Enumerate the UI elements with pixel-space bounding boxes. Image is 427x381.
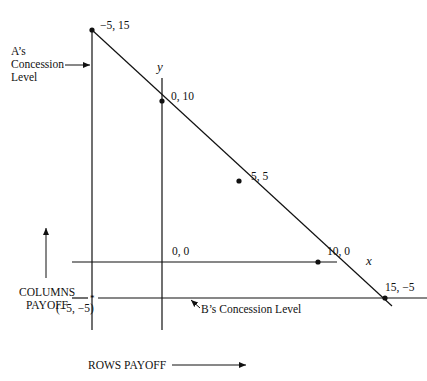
point-label-10-0: 10, 0: [327, 245, 350, 258]
point-label-5-5: 5, 5: [251, 170, 268, 183]
point-10-0: [315, 259, 320, 264]
columns-payoff-caption: COLUMNS PAYOFF: [19, 286, 75, 312]
point-label-0-10: 0, 10: [171, 90, 194, 103]
point-neg5-15: [89, 27, 94, 32]
point-label-neg5-15: −5, 15: [100, 19, 130, 32]
a-concession-label: A’s Concession Level: [11, 45, 64, 84]
rows-payoff-caption: ROWS PAYOFF: [88, 359, 166, 372]
point-label-15-neg5: 15, −5: [385, 281, 415, 294]
b-concession-label: B’s Concession Level: [201, 303, 301, 316]
origin-label: 0, 0: [172, 245, 189, 258]
point-15-neg5: [382, 295, 387, 300]
b-concession-arrow: [191, 300, 200, 308]
payoff-frontier-line: [92, 30, 392, 306]
point-0-10: [159, 98, 164, 103]
x-axis-label: x: [366, 254, 372, 267]
y-axis-label: y: [157, 60, 163, 73]
point-5-5: [236, 178, 241, 183]
payoff-diagram-canvas: *: [0, 0, 427, 381]
